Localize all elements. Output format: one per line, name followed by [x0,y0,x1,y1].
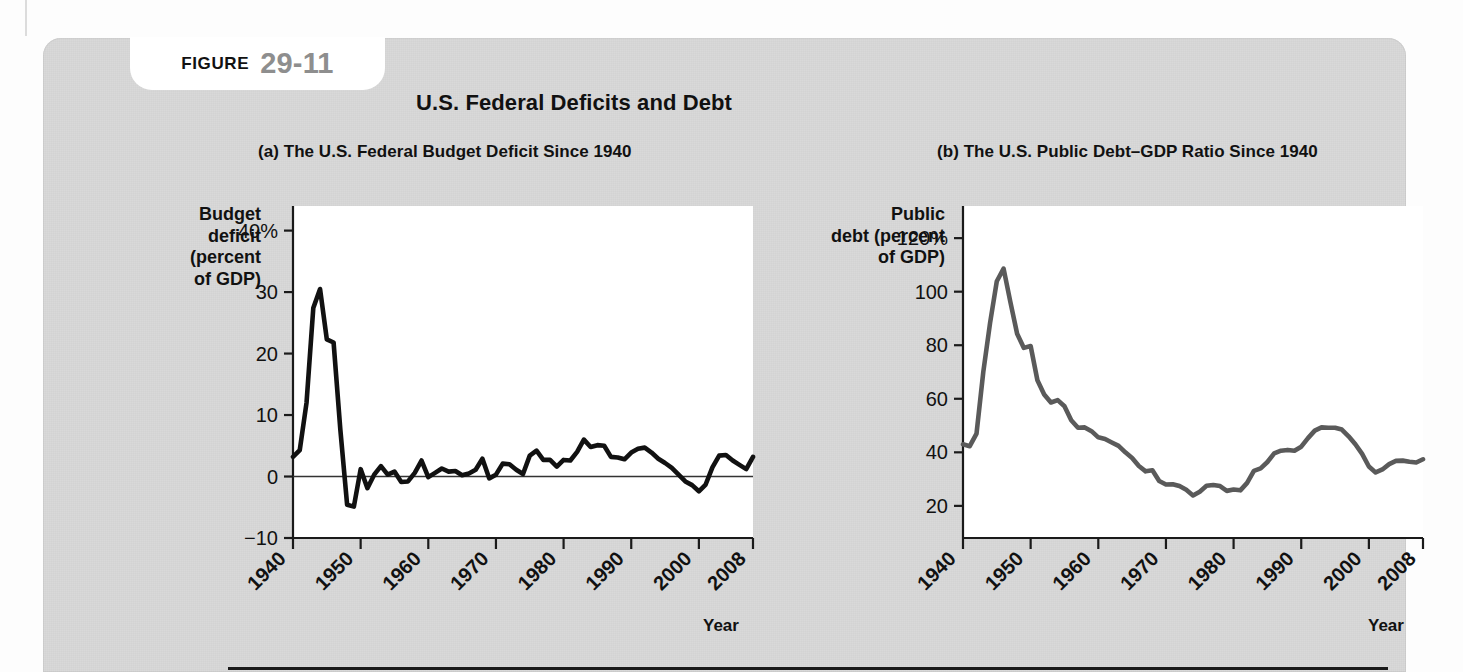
y-tick-label: 60 [926,388,948,410]
figure-box: FIGURE 29-11 U.S. Federal Deficits and D… [43,38,1406,672]
x-tick-label: 1980 [1183,547,1230,594]
x-tick-label: 2000 [649,547,696,594]
y-tick-label: 20 [256,343,278,365]
panel-a-chart: −10010203040%194019501960197019801990200… [223,188,783,608]
panel-a-title: (a) The U.S. Federal Budget Deficit Sinc… [258,142,632,162]
x-tick-label: 1960 [1048,547,1095,594]
y-tick-label: 120% [897,227,948,249]
y-tick-label: 80 [926,334,948,356]
y-tick-label: 40% [238,220,278,242]
y-tick-label: 0 [267,466,278,488]
x-tick-label: 1970 [1116,547,1163,594]
x-tick-label: 1940 [913,547,960,594]
figure-number: 29-11 [260,47,334,80]
x-tick-label: 1940 [243,547,290,594]
figure-title: U.S. Federal Deficits and Debt [416,90,732,116]
x-tick-label: 1960 [378,547,425,594]
figure-tab-label: FIGURE [181,54,249,74]
x-tick-label: 2008 [703,547,750,594]
y-tick-label: 40 [926,441,948,463]
x-tick-label: 1990 [581,547,628,594]
x-tick-label: 2008 [1373,547,1420,594]
x-tick-label: 2000 [1319,547,1366,594]
y-tick-label: 10 [256,404,278,426]
y-tick-label: −10 [244,527,278,549]
y-tick-label: 30 [256,281,278,303]
panel-a-x-axis-title: Year [703,616,739,636]
x-tick-label: 1980 [513,547,560,594]
panel-b-chart: 20406080100120%1940195019601970198019902… [893,188,1453,608]
x-tick-label: 1950 [310,547,357,594]
caption-divider [228,667,1388,670]
figure-number-tab: FIGURE 29-11 [130,37,385,90]
textbook-page: FIGURE 29-11 U.S. Federal Deficits and D… [0,0,1463,672]
panel-b-x-axis-title: Year [1368,616,1404,636]
panel-b-title: (b) The U.S. Public Debt–GDP Ratio Since… [937,142,1318,162]
y-tick-label: 100 [915,281,948,303]
x-tick-label: 1990 [1251,547,1298,594]
x-tick-label: 1970 [446,547,493,594]
y-tick-label: 20 [926,495,948,517]
page-rule [25,0,27,36]
x-tick-label: 1950 [980,547,1027,594]
